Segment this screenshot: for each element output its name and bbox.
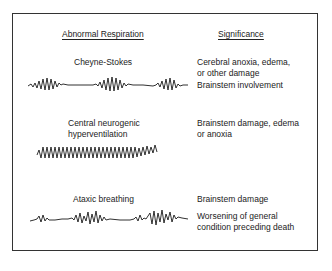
header-significance: Significance (218, 29, 264, 40)
significance-ataxic-line3: condition preceding death (197, 222, 294, 233)
significance-cheyne-stokes-line1: Cerebral anoxia, edema, (197, 57, 290, 68)
significance-cheyne-stokes-line2: or other damage (197, 68, 259, 79)
cnh-waveform (37, 142, 159, 162)
pattern-label-cnh-line1: Central neurogenic (68, 118, 140, 129)
significance-cnh-line1: Brainstem damage, edema (197, 118, 299, 129)
significance-cheyne-stokes-extra: Brainstem involvement (197, 80, 283, 91)
significance-ataxic-line2: Worsening of general (197, 211, 278, 222)
pattern-label-cheyne-stokes: Cheyne-Stokes (74, 57, 132, 68)
pattern-label-ataxic: Ataxic breathing (73, 194, 134, 205)
ataxic-waveform (30, 207, 180, 229)
cheyne-stokes-waveform (28, 74, 178, 94)
significance-cnh-line2: or anoxia (197, 129, 232, 140)
header-abnormal-respiration: Abnormal Respiration (62, 29, 144, 40)
significance-ataxic-line1: Brainstem damage (197, 194, 268, 205)
pattern-label-cnh-line2: hyperventilation (68, 129, 128, 140)
